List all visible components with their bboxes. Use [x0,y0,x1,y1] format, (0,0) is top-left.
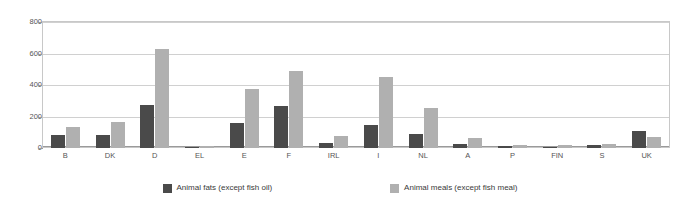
bar [409,134,423,148]
x-axis-tick-label: S [580,151,625,161]
bar-group [401,22,446,148]
bar [111,122,125,148]
x-axis-tick-label: DK [88,151,133,161]
y-axis-tick-mark [38,54,42,55]
y-axis-tick-mark [38,22,42,23]
bar [587,145,601,148]
bar-group [490,22,535,148]
x-axis-tick-label: NL [401,151,446,161]
bar-group [132,22,177,148]
x-axis-tick-label: UK [624,151,669,161]
x-axis-tick-label: F [267,151,312,161]
bar-group [267,22,312,148]
bar-group [311,22,356,148]
bar [200,146,214,148]
bar [558,145,572,148]
legend-item-animal-fats[interactable]: Animal fats (except fish oil) [163,183,273,193]
bar-group [535,22,580,148]
x-axis-tick-label: IRL [311,151,356,161]
y-axis-tick-mark [38,117,42,118]
bar-group [445,22,490,148]
bar [498,146,512,148]
y-axis-tick-label: 200 [2,113,42,121]
bar [289,71,303,148]
bar [334,136,348,148]
bar [245,89,259,148]
bar [155,49,169,148]
bars-layer [43,22,669,148]
y-axis-tick-label: 800 [2,18,42,26]
x-axis-tick-label: D [132,151,177,161]
y-axis-tick-mark [38,148,42,149]
bar [513,145,527,148]
bar-group [43,22,88,148]
bar [274,106,288,148]
x-axis-tick-label: I [356,151,401,161]
y-axis-tick-label: 400 [2,81,42,89]
bar [424,108,438,148]
bar [96,135,110,148]
bar [51,135,65,148]
legend-label-meals: Animal meals (except fish meal) [404,183,517,193]
y-axis: 0200400600800 [0,21,42,149]
x-axis-tick-label: P [490,151,535,161]
x-axis-tick-label: E [222,151,267,161]
chart-legend: Animal fats (except fish oil) Animal mea… [0,183,680,193]
y-axis-tick-label: 0 [2,144,42,152]
bar-group [580,22,625,148]
bar-group [624,22,669,148]
x-axis-tick-label: B [43,151,88,161]
bar-group [222,22,267,148]
x-axis-tick-label: EL [177,151,222,161]
x-axis: BDKDELEFIRLINLAPFINSUK [43,151,669,165]
bar [364,125,378,148]
bar [379,77,393,148]
bar [468,138,482,148]
legend-label-fats: Animal fats (except fish oil) [177,183,273,193]
x-axis-tick-label: FIN [535,151,580,161]
bar [319,143,333,148]
bar [140,105,154,148]
bar [632,131,646,148]
bar-group [177,22,222,148]
y-axis-tick-mark [38,85,42,86]
bar-group [356,22,401,148]
legend-swatch-icon-meals [390,184,399,193]
bar [453,144,467,148]
legend-item-animal-meals[interactable]: Animal meals (except fish meal) [390,183,517,193]
bar-group [88,22,133,148]
bar [185,147,199,148]
x-axis-tick-label: A [445,151,490,161]
bar-chart: 0200400600800 BDKDELEFIRLINLAPFINSUK Ani… [0,0,680,213]
bar [602,144,616,148]
bar [230,123,244,148]
bar [543,147,557,148]
bar [647,137,661,148]
legend-swatch-icon-fats [163,184,172,193]
bar [66,127,80,148]
y-axis-tick-label: 600 [2,50,42,58]
